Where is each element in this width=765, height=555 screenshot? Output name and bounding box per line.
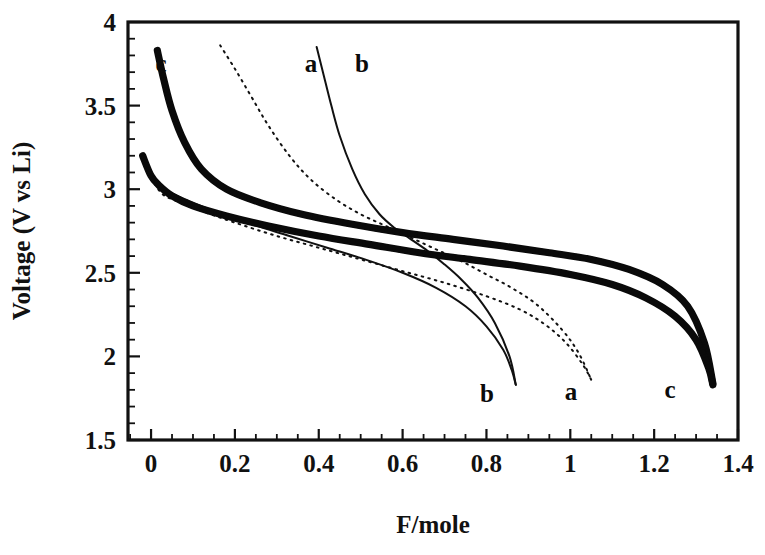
y-tick-label: 2.5 bbox=[85, 260, 116, 287]
y-tick-label: 4 bbox=[104, 9, 117, 36]
curve-a-charge bbox=[220, 45, 591, 379]
figure-container: 00.20.40.60.811.21.4 1.522.533.54 F/mole… bbox=[0, 0, 765, 555]
x-axis-title: F/mole bbox=[396, 511, 470, 538]
curve-b-discharge bbox=[143, 154, 516, 385]
data-curves bbox=[143, 45, 713, 384]
curve-label-b-top: b bbox=[355, 50, 369, 77]
y-tick-label: 1.5 bbox=[85, 427, 116, 454]
plot-frame bbox=[128, 22, 738, 440]
y-axis-title: Voltage (V vs Li) bbox=[8, 142, 36, 320]
curve-label-c-top: c bbox=[155, 50, 166, 77]
y-axis-tick-labels: 1.522.533.54 bbox=[85, 9, 117, 454]
curve-label-a-bottom: a bbox=[565, 378, 578, 405]
x-tick-label: 0.6 bbox=[387, 450, 418, 477]
curve-label-c-bottom: c bbox=[664, 376, 675, 403]
x-tick-label: 0.2 bbox=[219, 450, 250, 477]
y-axis-ticks bbox=[128, 22, 140, 440]
x-tick-label: 1 bbox=[564, 450, 577, 477]
x-axis-tick-labels: 00.20.40.60.811.21.4 bbox=[145, 450, 754, 477]
x-tick-label: 0.8 bbox=[471, 450, 502, 477]
x-tick-label: 0 bbox=[145, 450, 158, 477]
curve-b-charge bbox=[317, 47, 516, 385]
curve-label-a-top: a bbox=[305, 50, 318, 77]
y-tick-label: 3 bbox=[104, 176, 117, 203]
x-tick-label: 1.2 bbox=[639, 450, 670, 477]
x-axis-ticks bbox=[130, 429, 738, 440]
curve-label-b-bottom: b bbox=[480, 380, 494, 407]
x-tick-label: 1.4 bbox=[722, 450, 754, 477]
y-tick-label: 2 bbox=[104, 343, 117, 370]
voltage-vs-fmole-chart: 00.20.40.60.811.21.4 1.522.533.54 F/mole… bbox=[0, 0, 765, 555]
y-tick-label: 3.5 bbox=[85, 93, 116, 120]
x-tick-label: 0.4 bbox=[303, 450, 335, 477]
